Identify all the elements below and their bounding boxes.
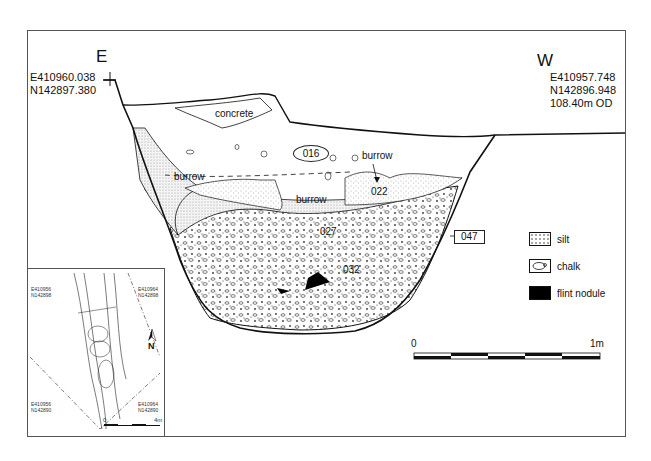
context-022-label: 022 <box>371 186 388 197</box>
legend-silt: silt <box>529 232 569 246</box>
burrow-left-label: burrow <box>174 171 205 182</box>
silt-swatch-icon <box>529 232 551 246</box>
inset-scale-end: 4m <box>154 417 162 423</box>
legend-chalk: chalk <box>529 259 580 273</box>
inset-tl-northing: N142898 <box>31 292 51 298</box>
context-047-label: 047 <box>454 230 485 244</box>
west-easting-label: E410957.748 <box>550 71 615 83</box>
east-survey-cross <box>104 72 116 86</box>
context-027-label: 027 <box>320 226 337 237</box>
flint-swatch-icon <box>529 286 551 300</box>
inset-location-map: E410956 N142898 E410964 N142898 E410956 … <box>27 268 165 437</box>
east-northing-label: N142897.380 <box>30 84 96 96</box>
west-elevation-label: 108.40m OD <box>550 97 612 109</box>
context-032-label: 032 <box>343 264 360 275</box>
context-016-label: 016 <box>293 145 329 162</box>
legend-chalk-label: chalk <box>557 261 580 272</box>
concrete-label: concrete <box>215 108 253 119</box>
east-direction-label: E <box>96 48 107 66</box>
inset-bl-northing: N142890 <box>31 407 51 413</box>
east-easting-label: E410960.038 <box>30 71 95 83</box>
inset-tr-northing: N142898 <box>138 292 158 298</box>
west-northing-label: N142896.948 <box>550 84 616 96</box>
burrow-right-label: burrow <box>362 150 393 161</box>
legend-silt-label: silt <box>557 234 569 245</box>
north-arrow-icon <box>148 329 152 341</box>
chalk-swatch-icon <box>529 259 551 273</box>
legend-flint-label: flint nodule <box>557 288 605 299</box>
inset-scale-start: 0 <box>103 417 106 423</box>
scale-start-label: 0 <box>411 338 417 349</box>
scale-end-label: 1m <box>590 338 604 349</box>
west-direction-label: W <box>537 52 553 70</box>
main-scale-bar <box>414 353 600 359</box>
burrow-center-label: burrow <box>296 194 327 205</box>
inset-br-northing: N142890 <box>138 407 158 413</box>
legend-flint-nodule: flint nodule <box>529 286 605 300</box>
inset-north-label: N <box>148 341 155 351</box>
